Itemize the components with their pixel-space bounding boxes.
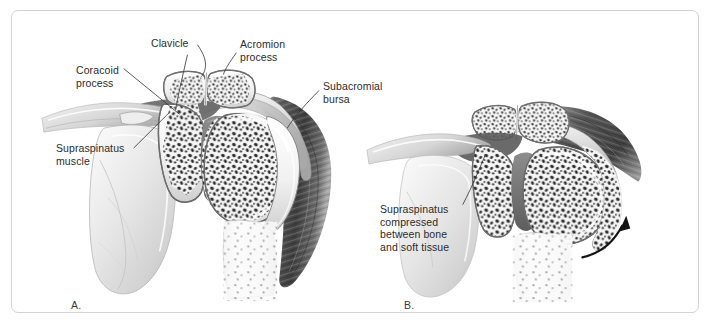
label-supraspinatus-compressed: Supraspinatus compressed between bone an…: [380, 203, 449, 253]
figure-frame: Clavicle Acromion process Coracoid proce…: [11, 10, 699, 313]
label-coracoid-process: Coracoid process: [76, 64, 119, 89]
label-clavicle: Clavicle: [151, 37, 189, 50]
label-supraspinatus-muscle: Supraspinatus muscle: [56, 142, 124, 167]
label-subacromial-bursa: Subacromial bursa: [323, 80, 382, 105]
panel-b-artwork: [367, 96, 641, 303]
leader-clavicle: [197, 45, 205, 77]
panel-letter-b: B.: [404, 299, 414, 311]
panel-letter-a: A.: [71, 299, 81, 311]
label-acromion-process: Acromion process: [240, 38, 285, 63]
